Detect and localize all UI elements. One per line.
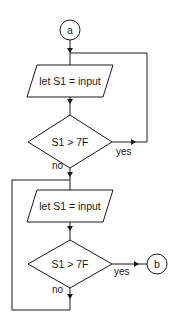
process-input-2: let S1 = input <box>27 190 113 222</box>
arrow-down-icon <box>67 226 73 231</box>
connector-b-label: b <box>154 258 160 270</box>
process-input-2-label: let S1 = input <box>39 200 101 212</box>
flowchart-canvas: a let S1 = input S1 > 7F yes no let S1 =… <box>0 0 172 325</box>
no-label-2: no <box>52 284 64 295</box>
arrow-right-icon <box>134 261 139 267</box>
decision-1-label: S1 > 7F <box>51 136 88 148</box>
connector-a-label: a <box>67 24 73 36</box>
no-label-1: no <box>52 160 64 171</box>
process-input-1-label: let S1 = input <box>39 75 101 87</box>
arrow-down-icon <box>67 294 73 299</box>
arrow-down-icon <box>67 172 73 177</box>
connector-a: a <box>60 20 80 40</box>
decision-1: S1 > 7F <box>28 115 112 168</box>
arrow-down-icon <box>67 99 73 104</box>
process-input-1: let S1 = input <box>27 65 113 97</box>
decision-2: S1 > 7F <box>28 240 112 288</box>
decision-2-label: S1 > 7F <box>51 258 88 270</box>
arrow-right-icon <box>131 139 136 145</box>
arrow-down-icon <box>67 48 73 53</box>
yes-label-1: yes <box>116 146 132 157</box>
yes-label-2: yes <box>114 266 130 277</box>
connector-b: b <box>147 254 167 274</box>
